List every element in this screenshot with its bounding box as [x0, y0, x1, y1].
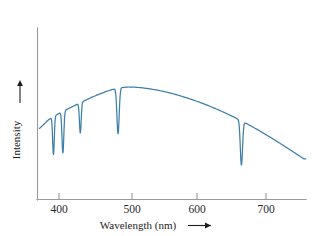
spectrum-figure: 400 500 600 700 Wavelength (nm) Intensit… — [0, 0, 330, 236]
y-axis-arrow-head — [17, 80, 23, 86]
spectrum-curve — [39, 87, 305, 165]
x-axis-arrow-head — [205, 223, 211, 229]
x-axis-title: Wavelength (nm) — [100, 219, 177, 232]
y-axis-title: Intensity — [10, 120, 22, 159]
spectrum-plot: 400 500 600 700 Wavelength (nm) Intensit… — [0, 0, 330, 236]
x-axis-ticks — [59, 193, 266, 199]
x-tick-label-600: 600 — [188, 203, 206, 215]
x-tick-label-500: 500 — [123, 203, 141, 215]
x-tick-label-700: 700 — [257, 203, 275, 215]
x-tick-label-400: 400 — [50, 203, 68, 215]
